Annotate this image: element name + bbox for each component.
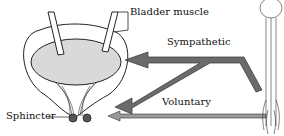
- label-sympathetic: Sympathetic: [167, 36, 231, 47]
- sphincter-left: [69, 114, 77, 122]
- bladder-nerve-diagram: Bladder muscle Sympathetic Voluntary Sph…: [0, 0, 284, 136]
- label-bladder-muscle: Bladder muscle: [130, 6, 209, 17]
- label-voluntary: Voluntary: [162, 96, 211, 107]
- label-sphincter: Sphincter: [6, 110, 56, 121]
- sphincter-right: [83, 114, 91, 122]
